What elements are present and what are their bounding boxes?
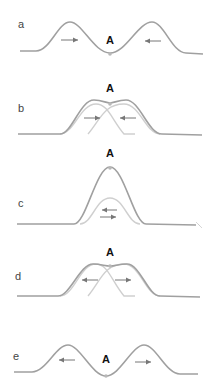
point-label-e: A	[102, 353, 110, 365]
panel-e: e A	[13, 345, 198, 378]
point-label-d: A	[106, 246, 114, 258]
panel-label-e: e	[13, 350, 19, 362]
endpoint-mark	[196, 222, 202, 228]
point-label-c: A	[106, 147, 114, 159]
point-marker-c	[108, 166, 112, 170]
point-marker-d	[108, 264, 112, 268]
panel-b: b A	[18, 82, 202, 135]
component-pulse-left-b	[60, 104, 135, 134]
point-marker-a	[108, 52, 112, 56]
panel-d: d A	[15, 246, 200, 297]
panel-c: c A	[17, 147, 202, 228]
component-pulse-right-b	[88, 104, 160, 134]
wave-c	[17, 167, 196, 225]
panel-label-d: d	[15, 270, 21, 282]
panel-a: a A	[18, 18, 203, 56]
point-marker-b	[108, 102, 112, 106]
panel-label-c: c	[18, 197, 24, 209]
panel-label-a: a	[18, 18, 25, 30]
point-label-b: A	[106, 82, 114, 94]
point-label-a: A	[106, 34, 114, 46]
point-marker-e	[104, 374, 108, 378]
superposition-diagram: a A b A c A d	[0, 0, 212, 385]
panel-label-b: b	[18, 102, 24, 114]
diagram-canvas: a A b A c A d	[0, 0, 212, 385]
